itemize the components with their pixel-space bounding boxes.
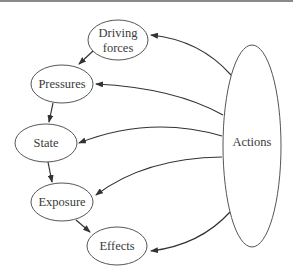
state-label: State bbox=[34, 136, 59, 150]
driving-forces-label-line2: forces bbox=[103, 41, 134, 55]
effects-label: Effects bbox=[99, 239, 134, 253]
actions-label: Actions bbox=[233, 135, 272, 149]
driving-forces-label-line1: Driving bbox=[99, 26, 139, 40]
dpseea-diagram: Driving forces Pressures State Exposure … bbox=[0, 0, 293, 276]
pressures-label: Pressures bbox=[38, 77, 85, 91]
edge-pressures-to-state bbox=[49, 103, 53, 122]
edge-actions-to-driving-forces bbox=[151, 35, 231, 75]
edge-driving-forces-to-pressures bbox=[79, 51, 93, 64]
node-exposure: Exposure bbox=[31, 183, 93, 221]
node-effects: Effects bbox=[87, 227, 147, 265]
edge-actions-to-effects bbox=[151, 212, 230, 251]
action-edges bbox=[79, 35, 231, 251]
node-state: State bbox=[15, 124, 77, 162]
exposure-label: Exposure bbox=[38, 195, 86, 209]
edge-actions-to-exposure bbox=[96, 157, 222, 195]
node-driving-forces: Driving forces bbox=[88, 20, 148, 60]
edge-state-to-exposure bbox=[48, 162, 52, 182]
edge-actions-to-pressures bbox=[96, 84, 223, 115]
node-pressures: Pressures bbox=[31, 65, 93, 103]
node-actions: Actions bbox=[223, 45, 281, 247]
edge-actions-to-state bbox=[79, 127, 222, 143]
edge-exposure-to-effects bbox=[76, 220, 90, 232]
